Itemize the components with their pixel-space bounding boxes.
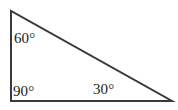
triangle-outline xyxy=(11,11,172,101)
geometry-figure: 60° 90° 30° xyxy=(0,0,178,110)
angle-label-right-angle: 90° xyxy=(13,84,34,99)
angle-label-apex: 60° xyxy=(14,31,35,46)
angle-label-base-right: 30° xyxy=(93,82,114,97)
